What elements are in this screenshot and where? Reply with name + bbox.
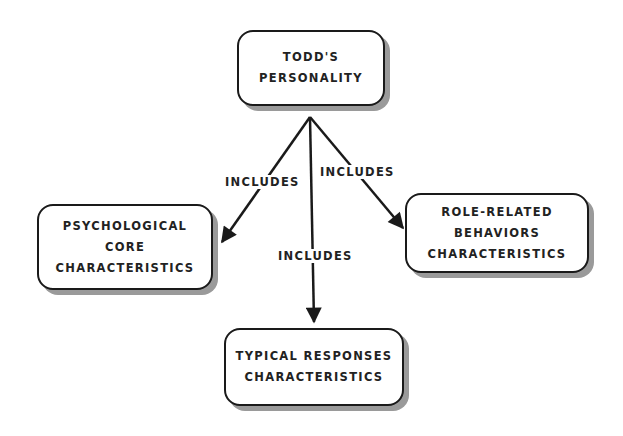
node-todds-personality[interactable]: TODD'S PERSONALITY — [237, 30, 385, 106]
node-role-related-behaviors[interactable]: ROLE-RELATED BEHAVIORS CHARACTERISTICS — [405, 193, 589, 273]
node-line: ROLE-RELATED — [441, 202, 552, 223]
edge-root-typical — [310, 117, 314, 322]
node-line: TYPICAL RESPONSES — [236, 346, 393, 367]
node-psychological-core[interactable]: PSYCHOLOGICAL CORE CHARACTERISTICS — [37, 204, 213, 290]
edge-label-role: INCLUDES — [318, 165, 397, 179]
node-line: CORE — [105, 237, 145, 258]
node-line: CHARACTERISTICS — [245, 367, 384, 388]
edge-label-typical: INCLUDES — [276, 249, 355, 263]
node-line: CHARACTERISTICS — [428, 244, 567, 265]
node-line: TODD'S — [283, 47, 339, 68]
node-line: PSYCHOLOGICAL — [63, 216, 187, 237]
node-line: BEHAVIORS — [454, 223, 540, 244]
edge-label-psych: INCLUDES — [223, 175, 302, 189]
node-line: PERSONALITY — [259, 68, 363, 89]
node-line: CHARACTERISTICS — [56, 258, 195, 279]
node-typical-responses[interactable]: TYPICAL RESPONSES CHARACTERISTICS — [224, 328, 404, 406]
